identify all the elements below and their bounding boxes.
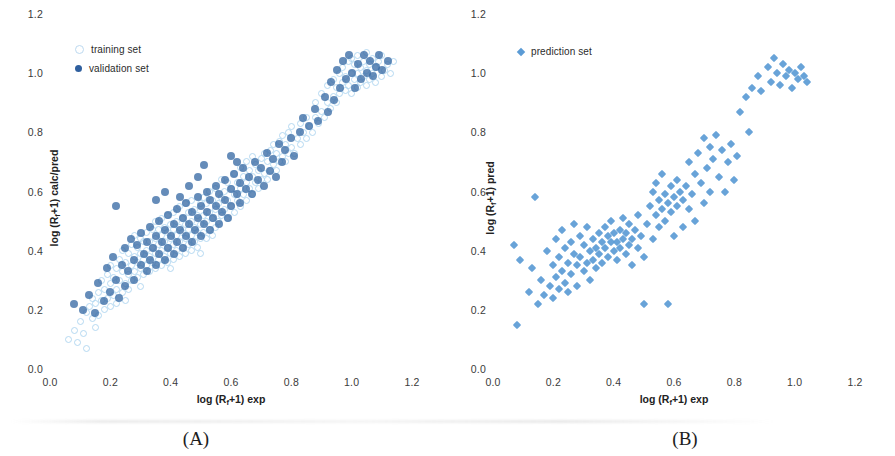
data-point [131,253,138,260]
data-point [579,267,587,275]
data-point [718,146,726,154]
data-point [312,114,319,121]
data-point [243,158,250,165]
data-point [628,235,636,243]
data-point [143,229,150,236]
data-point [282,158,289,165]
data-point [351,61,358,68]
data-point [658,170,666,178]
data-point [570,220,578,228]
data-point [255,185,262,192]
data-point [212,206,219,213]
data-point [146,268,153,275]
data-point [697,178,705,186]
data-point [661,217,669,225]
data-point [100,297,108,305]
data-point [354,84,361,91]
data-point [357,79,364,86]
data-point [197,200,204,207]
data-point [161,256,169,264]
data-point [384,61,391,68]
data-point [119,247,126,254]
data-point [673,202,681,210]
data-point [194,173,202,181]
data-point [273,150,280,157]
data-point [369,70,376,77]
data-point [691,170,699,178]
data-point [221,196,229,204]
data-point [290,152,298,160]
data-point [179,244,186,251]
data-point [715,172,723,180]
x-axis-tick: 0.8 [727,376,742,388]
data-point [621,229,629,237]
data-point [140,271,147,278]
data-point [146,223,154,231]
data-point [143,238,151,246]
data-point [258,155,265,162]
data-point [167,221,174,228]
data-point [330,96,338,104]
data-point [267,147,274,154]
data-point [276,158,283,165]
data-point [363,49,370,56]
data-point [107,303,114,310]
y-axis-tick: 1.0 [471,67,486,79]
data-point [161,238,168,245]
data-point [336,70,343,77]
data-point [612,238,620,246]
data-point [254,176,262,184]
data-point [197,232,205,240]
data-point [104,295,111,302]
data-point [122,280,129,287]
data-point [366,76,373,83]
data-point [390,58,397,65]
y-axis-tick: 0.4 [28,245,43,257]
data-point [119,268,126,275]
data-point [246,185,253,192]
panel-caption-a: (A) [183,428,209,450]
data-point [594,249,602,257]
data-point [161,226,169,234]
data-point [140,250,148,258]
x-axis-label-a: log (Rf+1) exp [197,393,266,405]
data-point [314,117,322,125]
data-point [191,238,198,245]
data-point [258,176,265,183]
data-point [375,51,383,59]
data-point [561,279,569,287]
data-point [80,330,87,337]
data-point [600,223,608,231]
data-point [567,270,575,278]
data-point [237,185,244,192]
data-point [266,167,274,175]
data-point [212,185,219,192]
data-point [152,218,159,225]
data-point [185,220,193,228]
data-point [95,289,102,296]
data-point [161,188,169,196]
data-point [318,108,325,115]
data-point [191,206,198,213]
data-point [234,179,241,186]
data-point [98,277,105,284]
data-point [94,279,102,287]
data-point [173,205,181,213]
data-point [724,158,732,166]
data-point [200,212,207,219]
data-point [227,185,235,193]
data-point [618,214,626,222]
data-point [369,55,376,62]
data-point [203,235,210,242]
data-point [182,232,190,240]
data-point [299,114,307,122]
data-point [706,187,714,195]
data-point [324,82,331,89]
data-point [543,246,551,254]
data-point [573,261,581,269]
data-point [685,158,693,166]
data-point [176,224,183,231]
data-point [552,235,560,243]
data-point [700,199,708,207]
plot-b: prediction set log (Rf+1) pred log (Rf+1… [493,14,855,369]
